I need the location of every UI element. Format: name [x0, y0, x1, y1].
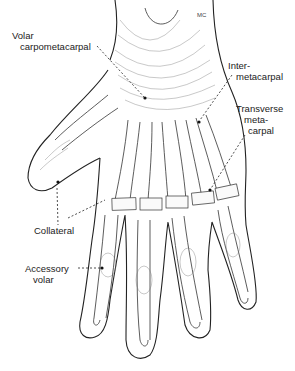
thumb-outline	[28, 70, 108, 191]
metacarpals	[115, 115, 232, 200]
wrist-outline-left	[110, 0, 117, 60]
ring-finger-outline	[160, 222, 211, 338]
carpal-region	[115, 8, 215, 110]
illustrator-signature: MC	[197, 10, 206, 21]
label-accessory-volar: Accessory volar	[25, 263, 69, 285]
label-volar-carpometacarpal: Volar carpometacarpal	[12, 30, 91, 52]
label-collateral: Collateral	[34, 225, 74, 236]
label-intermetacarpal: Inter- metacarpal	[228, 60, 283, 82]
hand-illustration	[0, 0, 295, 371]
label-transverse-metacarpal: Transverse meta- carpal	[236, 103, 283, 136]
hand-ligament-diagram: MC Volar carpometacarpal Inter- metacarp…	[0, 0, 295, 371]
leader-transverse-metacarpal	[210, 135, 245, 190]
wrist-outline-right	[213, 0, 246, 170]
transverse-ligaments	[112, 184, 239, 211]
phalanges	[94, 206, 248, 346]
leader-collateral	[68, 200, 105, 218]
middle-finger-outline	[110, 215, 160, 358]
leader-volar-carpometacarpal	[97, 46, 145, 98]
thumb-metacarpal	[55, 95, 108, 140]
